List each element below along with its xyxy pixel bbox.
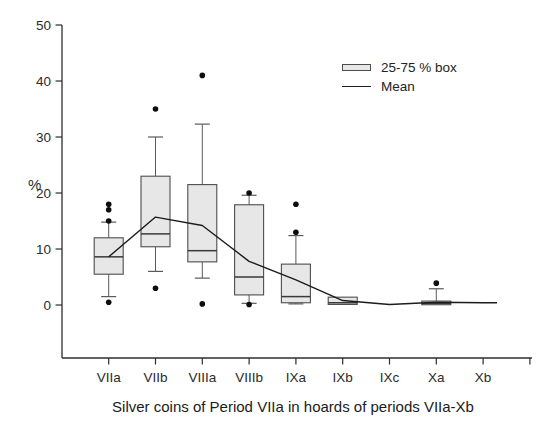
outlier-dot xyxy=(200,301,206,307)
boxplot-figure: 01020304050VIIaVIIbVIIIaVIIIbIXaIXbIXcXa… xyxy=(0,0,545,434)
y-tick-label: 0 xyxy=(43,298,51,313)
y-tick-label: 30 xyxy=(36,130,51,145)
outlier-dot xyxy=(200,73,206,79)
legend-row-box: 25-75 % box xyxy=(342,58,457,77)
legend: 25-75 % box Mean xyxy=(342,58,457,96)
outlier-dot xyxy=(106,299,112,305)
outlier-dot xyxy=(106,218,112,224)
outlier-dot xyxy=(106,207,112,213)
boxplot-VIIa xyxy=(94,222,123,296)
chart-canvas: 01020304050VIIaVIIbVIIIaVIIIbIXaIXbIXcXa… xyxy=(0,0,545,434)
boxplot-VIIIa xyxy=(188,124,217,278)
outlier-dot xyxy=(434,280,440,286)
y-tick-label: 10 xyxy=(36,242,51,257)
outlier-dot xyxy=(153,285,159,291)
x-tick-label: IXb xyxy=(333,370,353,385)
x-tick-label: VIIIb xyxy=(235,370,263,385)
x-tick-label: Xa xyxy=(428,370,445,385)
chart-title: Silver coins of Period VIIa in hoards of… xyxy=(62,398,524,415)
legend-mean-label: Mean xyxy=(381,79,415,94)
y-tick-label: 50 xyxy=(36,18,51,33)
legend-box-label: 25-75 % box xyxy=(381,60,457,75)
x-tick-label: VIIIa xyxy=(188,370,216,385)
x-tick-label: IXa xyxy=(286,370,307,385)
y-tick-label: 40 xyxy=(36,74,51,89)
boxplot-VIIb xyxy=(141,137,170,271)
boxplot-IXa xyxy=(281,236,310,304)
boxplot-VIIIb xyxy=(235,195,264,303)
legend-row-mean: Mean xyxy=(342,77,457,96)
x-tick-label: Xb xyxy=(475,370,492,385)
outlier-dot xyxy=(246,302,252,308)
x-tick-label: VIIb xyxy=(143,370,167,385)
outlier-dot xyxy=(293,229,299,235)
iqr-box xyxy=(141,176,170,247)
outlier-dot xyxy=(153,106,159,112)
outlier-dot xyxy=(106,201,112,207)
outlier-dot xyxy=(293,201,299,207)
box-swatch-icon xyxy=(342,64,371,71)
x-tick-label: IXc xyxy=(380,370,400,385)
mean-line-swatch-icon xyxy=(342,86,371,87)
iqr-box xyxy=(235,205,264,295)
outlier-dot xyxy=(246,190,252,196)
x-tick-label: VIIa xyxy=(97,370,122,385)
y-axis-label: % xyxy=(28,176,41,193)
